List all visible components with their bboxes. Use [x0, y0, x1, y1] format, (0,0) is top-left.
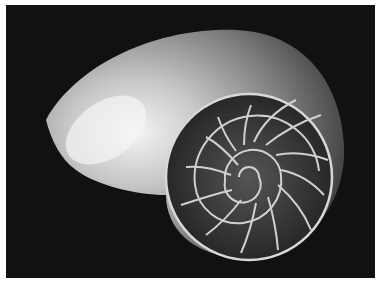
nautilus-shell-illustration [6, 5, 375, 278]
nautilus-photo [6, 5, 375, 278]
